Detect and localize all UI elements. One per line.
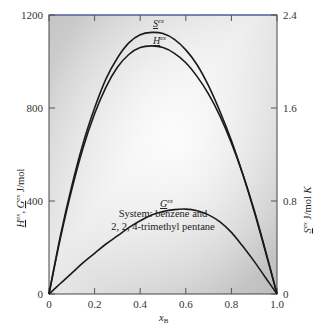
y-tick-label-right: 2.4 xyxy=(283,9,297,21)
y-tick-label-right: 0 xyxy=(283,288,289,300)
x-tick-label: 0.8 xyxy=(225,298,239,310)
x-tick-label: 0.4 xyxy=(133,298,147,310)
y-tick-label-left: 800 xyxy=(27,102,44,114)
chart-canvas: 00.20.40.60.81.00400800120000.81.62.4 Se… xyxy=(0,0,323,331)
y-tick-label-left: 1200 xyxy=(21,9,44,21)
y-tick-label-left: 400 xyxy=(27,195,44,207)
y-axis-right-title: Sex J/mol K xyxy=(301,185,313,233)
x-axis-title: xB xyxy=(158,312,169,325)
y-tick-label-left: 0 xyxy=(38,288,44,300)
x-tick-label: 0.6 xyxy=(179,298,193,310)
annotation-line-1: System: benzene and xyxy=(119,208,208,219)
x-axis-title-sub: B xyxy=(164,317,169,325)
y-tick-label-right: 1.6 xyxy=(283,102,297,114)
plot-area xyxy=(49,15,277,294)
y-axis-left-title: Hex, Gex J/mol xyxy=(14,169,26,229)
x-tick-label: 0.2 xyxy=(88,298,102,310)
svg-text:xB: xB xyxy=(158,312,169,325)
y-tick-label-right: 0.8 xyxy=(283,195,297,207)
svg-text:Hex, Gex J/mol: Hex, Gex J/mol xyxy=(14,169,26,229)
annotation-line-2: 2, 2, 4-trimethyl pentane xyxy=(111,221,215,232)
x-tick-label: 0 xyxy=(46,298,52,310)
svg-text:Sex J/mol K: Sex J/mol K xyxy=(301,185,313,233)
